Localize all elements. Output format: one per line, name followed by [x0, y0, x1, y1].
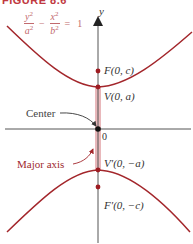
major-axis-annotation: Major axis	[17, 159, 64, 170]
exponent: 2	[55, 10, 59, 18]
focus-top-label: F(0, c)	[104, 65, 134, 76]
equals-sign: =	[63, 18, 73, 29]
vertex-bottom-label: V′(0, −a)	[104, 158, 144, 169]
fraction-y-over-a: y2 a2	[24, 11, 34, 37]
exponent: 2	[30, 24, 34, 32]
y-axis-label: y	[99, 6, 104, 17]
equation-rhs: 1	[75, 18, 84, 29]
center-annotation: Center	[26, 108, 55, 119]
hyperbola-figure: FIGURE 8.6	[0, 0, 193, 244]
exponent: 2	[55, 24, 59, 32]
focus-top-point	[96, 69, 101, 74]
vertex-top-label: V(0, a)	[104, 91, 135, 102]
fraction-x-over-b: x2 b2	[50, 11, 60, 37]
vertex-top-point	[96, 85, 101, 90]
minus-sign: −	[37, 18, 47, 29]
y-axis-arrow-icon	[93, 16, 103, 26]
focus-bottom-label: F′(0, −c)	[104, 200, 144, 211]
center-point	[95, 126, 101, 132]
origin-label: 0	[102, 132, 107, 142]
exponent: 2	[29, 10, 33, 18]
hyperbola-equation: y2 a2 − x2 b2 = 1	[24, 11, 84, 37]
major-axis-pointer-arrow-icon	[73, 149, 93, 164]
focus-bottom-point	[96, 185, 101, 190]
center-pointer-arrow-icon	[60, 113, 96, 126]
vertex-bottom-point	[96, 168, 101, 173]
